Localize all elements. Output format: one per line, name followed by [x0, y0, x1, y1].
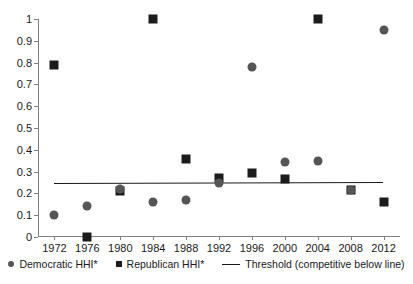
y-axis-line: [38, 19, 39, 237]
republican-data-point: [182, 154, 191, 163]
y-tick: [34, 215, 38, 216]
x-axis-label: 1996: [240, 242, 264, 254]
y-axis-label: 0: [26, 232, 32, 243]
x-axis-label: 2004: [305, 242, 329, 254]
x-tick: [120, 236, 121, 240]
democratic-data-point: [313, 156, 322, 165]
y-tick: [34, 41, 38, 42]
democratic-data-point: [50, 211, 59, 220]
democratic-data-point: [182, 195, 191, 204]
chart-legend: Democratic HHI* Republican HHI* Threshol…: [0, 258, 413, 270]
democratic-data-point: [280, 157, 289, 166]
democratic-data-point: [346, 186, 355, 195]
line-marker-icon: [222, 264, 240, 265]
republican-data-point: [313, 15, 322, 24]
legend-item-threshold: Threshold (competitive below line): [222, 258, 404, 270]
x-tick: [186, 236, 187, 240]
x-tick: [219, 236, 220, 240]
x-tick: [384, 236, 385, 240]
democratic-data-point: [247, 62, 256, 71]
plot-area: 00.10.20.30.40.50.60.70.80.91 1972197619…: [38, 19, 400, 237]
x-axis-label: 1976: [75, 242, 99, 254]
legend-item-democratic: Democratic HHI*: [8, 258, 97, 270]
y-axis-label: 0.2: [17, 188, 32, 199]
democratic-data-point: [116, 185, 125, 194]
x-tick: [285, 236, 286, 240]
y-tick: [34, 84, 38, 85]
x-axis-label: 1988: [174, 242, 198, 254]
y-axis-label: 0.6: [17, 101, 32, 112]
x-axis-label: 1992: [207, 242, 231, 254]
y-tick: [34, 19, 38, 20]
x-axis-label: 2000: [273, 242, 297, 254]
y-tick: [34, 193, 38, 194]
x-tick: [252, 236, 253, 240]
y-axis-label: 0.4: [17, 144, 32, 155]
legend-label-democratic: Democratic HHI*: [19, 258, 97, 270]
x-axis-label: 2008: [338, 242, 362, 254]
x-axis-label: 1980: [108, 242, 132, 254]
y-axis-label: 0.7: [17, 79, 32, 90]
square-marker-icon: [116, 261, 122, 267]
scatter-chart: 00.10.20.30.40.50.60.70.80.91 1972197619…: [0, 0, 413, 284]
y-tick: [34, 63, 38, 64]
legend-item-republican: Republican HHI*: [116, 258, 205, 270]
x-tick: [153, 236, 154, 240]
democratic-data-point: [215, 178, 224, 187]
democratic-data-point: [379, 25, 388, 34]
circle-marker-icon: [8, 261, 14, 267]
republican-data-point: [247, 168, 256, 177]
democratic-data-point: [149, 198, 158, 207]
y-axis-label: 0.9: [17, 35, 32, 46]
republican-data-point: [149, 15, 158, 24]
x-tick: [351, 236, 352, 240]
y-axis-label: 0.1: [17, 210, 32, 221]
y-axis-label: 0.3: [17, 166, 32, 177]
y-tick: [34, 237, 38, 238]
x-axis-label: 1972: [42, 242, 66, 254]
republican-data-point: [50, 60, 59, 69]
republican-data-point: [280, 175, 289, 184]
y-tick: [34, 172, 38, 173]
x-tick: [318, 236, 319, 240]
y-axis-label: 1: [26, 14, 32, 25]
republican-data-point: [83, 233, 92, 242]
clipped-title-strip: [0, 0, 413, 10]
x-tick: [54, 236, 55, 240]
democratic-data-point: [83, 202, 92, 211]
y-axis-label: 0.5: [17, 123, 32, 134]
legend-label-threshold: Threshold (competitive below line): [245, 258, 404, 270]
legend-label-republican: Republican HHI*: [127, 258, 205, 270]
republican-data-point: [379, 198, 388, 207]
y-tick: [34, 128, 38, 129]
y-axis-label: 0.8: [17, 57, 32, 68]
x-axis-label: 2012: [371, 242, 395, 254]
x-axis-label: 1984: [141, 242, 165, 254]
y-tick: [34, 106, 38, 107]
y-tick: [34, 150, 38, 151]
